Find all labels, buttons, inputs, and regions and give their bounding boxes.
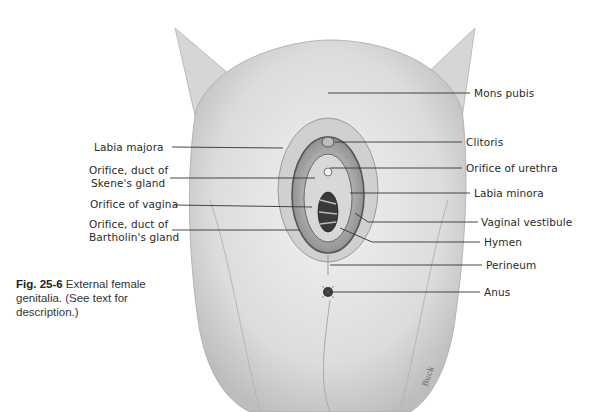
label-labia-minora: Labia minora	[474, 187, 544, 200]
label-bartholin-gland-line2: Bartholin's gland	[89, 231, 179, 244]
label-skene-gland-line1: Orifice, duct of	[89, 164, 168, 177]
figure-number: Fig. 25-6	[16, 278, 63, 290]
label-orifice-urethra: Orifice of urethra	[466, 162, 558, 175]
label-bartholin-gland-line1: Orifice, duct of	[89, 218, 168, 231]
label-anus: Anus	[484, 286, 510, 299]
label-mons-pubis: Mons pubis	[474, 87, 534, 100]
label-hymen: Hymen	[484, 236, 522, 249]
label-skene-gland-line2: Skene's gland	[91, 177, 165, 190]
label-vaginal-vestibule: Vaginal vestibule	[481, 216, 572, 229]
label-perineum: Perineum	[486, 259, 536, 272]
anatomy-figure: Labia majora Orifice, duct of Skene's gl…	[0, 0, 589, 412]
label-labia-majora: Labia majora	[94, 141, 164, 154]
anatomical-illustration	[0, 0, 589, 412]
figure-caption: Fig. 25-6 External female genitalia. (Se…	[16, 277, 191, 319]
label-clitoris: Clitoris	[466, 136, 503, 149]
label-orifice-vagina: Orifice of vagina	[90, 198, 178, 211]
